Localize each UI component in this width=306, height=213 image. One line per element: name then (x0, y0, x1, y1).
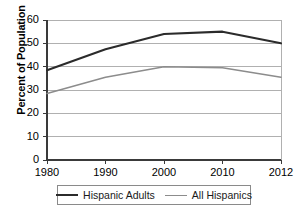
chart-legend: Hispanic AdultsAll Hispanics (57, 185, 251, 205)
data-series-lines (47, 32, 281, 94)
x-tick-label: 1990 (86, 166, 126, 178)
plot-area (0, 0, 306, 213)
y-tick-label: 50 (15, 36, 39, 48)
y-tick-label: 20 (15, 106, 39, 118)
legend-item: Hispanic Adults (56, 189, 155, 201)
x-tick-label: 2010 (203, 166, 243, 178)
x-tick-marks (47, 160, 281, 164)
legend-line-swatch (165, 195, 187, 196)
y-tick-label: 0 (15, 153, 39, 165)
y-tick-label: 40 (15, 60, 39, 72)
series-line (47, 32, 281, 71)
y-tick-label: 60 (15, 13, 39, 25)
legend-line-swatch (56, 194, 78, 196)
series-line (47, 67, 281, 94)
y-tick-label: 30 (15, 83, 39, 95)
legend-label: Hispanic Adults (83, 189, 155, 201)
gridlines (47, 20, 281, 137)
x-tick-label: 2000 (144, 166, 184, 178)
y-tick-label: 10 (15, 130, 39, 142)
legend-item: All Hispanics (165, 189, 252, 201)
x-tick-label: 2012 (261, 166, 301, 178)
x-tick-label: 1980 (27, 166, 67, 178)
legend-label: All Hispanics (192, 189, 252, 201)
line-chart: Percent of Population 0102030405060 1980… (0, 0, 306, 213)
